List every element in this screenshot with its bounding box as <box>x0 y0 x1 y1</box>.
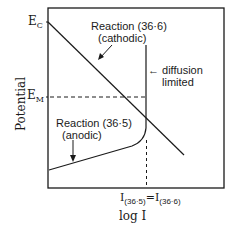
ec-main: E <box>28 14 37 28</box>
anodic-annotation-line1: Reaction (36·5) <box>56 117 132 129</box>
cathodic-annotation-line1: Reaction (36·6) <box>91 20 167 32</box>
i-right-sub: (36·6) <box>159 197 180 206</box>
em-main: E <box>27 88 36 102</box>
em-label: EM <box>27 89 44 106</box>
y-axis-label: Potential <box>15 77 27 131</box>
ec-sub: C <box>37 21 43 30</box>
anodic-curve <box>49 45 146 170</box>
ec-label: EC <box>28 15 43 32</box>
diffusion-annotation-line2: limited <box>162 76 194 88</box>
em-sub: M <box>36 95 44 104</box>
anodic-arrowhead-icon <box>70 155 76 162</box>
i-left-sub: (36·5) <box>124 197 145 206</box>
cathodic-annotation-line2: (cathodic) <box>98 32 146 44</box>
current-equality-label: I(36·5)=I(36·6) <box>120 192 181 208</box>
diffusion-annotation-line1: ← diffusion <box>148 64 203 76</box>
equals-sign: = <box>146 191 155 204</box>
anodic-annotation-line2: (anodic) <box>62 129 102 141</box>
x-axis-label: log I <box>119 210 146 222</box>
